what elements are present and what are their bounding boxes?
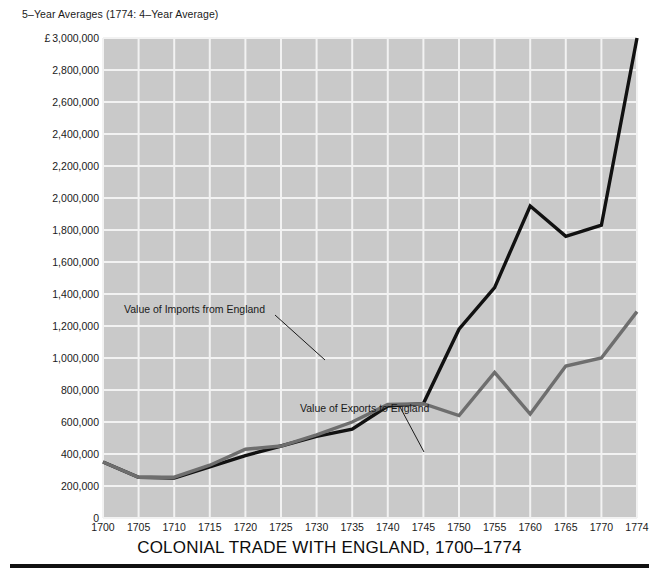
x-axis-tick: 1700 [91, 522, 114, 533]
title-block: COLONIAL TRADE WITH ENGLAND, 1700–1774 [0, 538, 659, 583]
annotation-exports-label: Value of Exports to England [300, 403, 429, 414]
x-axis-tick: 1710 [163, 522, 186, 533]
y-axis-tick: 600,000 [0, 417, 99, 428]
y-axis-tick: 200,000 [0, 481, 99, 492]
plot-area [103, 38, 637, 518]
x-axis-tick: 1770 [590, 522, 613, 533]
x-axis-tick: 1755 [483, 522, 506, 533]
chart-title: COLONIAL TRADE WITH ENGLAND, 1700–1774 [0, 538, 659, 558]
x-axis-tick: 1774 [625, 522, 648, 533]
x-axis-tick: 1725 [269, 522, 292, 533]
x-axis-tick: 1740 [376, 522, 399, 533]
x-axis-tick: 1750 [447, 522, 470, 533]
y-axis-tick: 1,600,000 [0, 257, 99, 268]
y-axis-tick: 2,600,000 [0, 97, 99, 108]
title-divider-rule [10, 564, 649, 568]
y-axis-tick: 400,000 [0, 449, 99, 460]
y-axis-tick: 0 [0, 513, 99, 524]
y-axis-tick: £3,000,000 [0, 33, 99, 44]
y-axis-tick: 2,200,000 [0, 161, 99, 172]
chart-figure: 5–Year Averages (1774: 4–Year Average) £… [0, 0, 659, 583]
y-axis-tick: 1,800,000 [0, 225, 99, 236]
x-axis-tick: 1745 [412, 522, 435, 533]
x-axis-tick: 1715 [198, 522, 221, 533]
chart-subtitle: 5–Year Averages (1774: 4–Year Average) [22, 8, 218, 20]
annotation-leader-lines [103, 38, 637, 518]
x-axis-tick-labels: 1700170517101715172017251730173517401745… [103, 522, 637, 538]
y-axis-tick: 1,200,000 [0, 321, 99, 332]
x-axis-tick: 1760 [519, 522, 542, 533]
x-axis-tick: 1735 [341, 522, 364, 533]
y-axis-tick: 1,400,000 [0, 289, 99, 300]
x-axis-tick: 1730 [305, 522, 328, 533]
annotation-imports-label: Value of Imports from England [124, 304, 265, 315]
currency-symbol: £ [44, 32, 50, 44]
y-axis-tick: 1,000,000 [0, 353, 99, 364]
y-axis-tick: 2,800,000 [0, 65, 99, 76]
x-axis-tick: 1765 [554, 522, 577, 533]
x-axis-tick: 1705 [127, 522, 150, 533]
y-axis-tick: 2,400,000 [0, 129, 99, 140]
y-axis-tick: 800,000 [0, 385, 99, 396]
y-axis-tick-labels: £3,000,0002,800,0002,600,0002,400,0002,2… [0, 38, 99, 518]
y-axis-tick: 2,000,000 [0, 193, 99, 204]
x-axis-tick: 1720 [234, 522, 257, 533]
